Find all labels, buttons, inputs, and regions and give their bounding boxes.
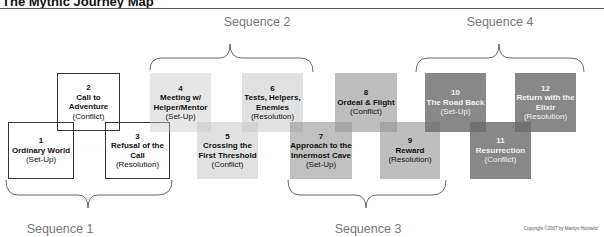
sequence-2-label: Sequence 2 <box>224 15 291 29</box>
stage-act: (Resolution) <box>116 160 159 170</box>
stage-name: Return with the Elixir <box>515 93 576 112</box>
stage-number: 11 <box>496 136 504 146</box>
stage-number: 3 <box>135 132 139 142</box>
stage-act: (Conflict) <box>72 112 104 122</box>
stage-name: Tests, Helpers, Enemies <box>242 93 303 112</box>
stage-name: Crossing the First Threshold <box>197 141 258 160</box>
stage-number: 6 <box>270 84 274 94</box>
stage-act: (Conflict) <box>211 160 243 170</box>
stage-number: 8 <box>364 88 368 98</box>
stage-name: Meeting w/ Helper/Mentor <box>150 93 211 112</box>
sequence-4-label: Sequence 4 <box>467 15 534 29</box>
brace-sequence-3 <box>288 180 446 208</box>
stage-name: The Road Back <box>427 98 485 108</box>
stage-box-12: 12Return with the Elixir(Resolution) <box>515 73 576 132</box>
copyright-notice: Copyright ©2007 by Marilyn Horowitz <box>524 226 598 231</box>
stage-act: (Resolution) <box>388 155 431 165</box>
stage-act: (Set-Up) <box>306 160 336 170</box>
stage-name: Approach to the Innermost Cave <box>290 141 352 160</box>
stage-number: 7 <box>319 132 323 142</box>
stage-name: Resurrection <box>476 146 525 156</box>
brace-sequence-1 <box>6 180 172 208</box>
stage-number: 10 <box>451 88 460 98</box>
stage-name: Ordinary World <box>12 146 70 156</box>
stage-act: (Conflict) <box>350 107 382 117</box>
stage-act: (Resolution) <box>524 112 567 122</box>
stage-name: Ordeal & Flight <box>337 98 394 108</box>
stage-act: (Set-Up) <box>26 155 56 165</box>
stage-name: Refusal of the Call <box>106 141 169 160</box>
stage-act: (Conflict) <box>484 155 516 165</box>
stage-number: 12 <box>541 84 550 94</box>
sequence-3-label: Sequence 3 <box>335 222 402 236</box>
sequence-1-label: Sequence 1 <box>27 222 94 236</box>
stage-act: (Resolution) <box>251 112 294 122</box>
stage-number: 1 <box>39 136 43 146</box>
brace-sequence-4 <box>416 44 584 72</box>
stage-name: Call to Adventure <box>58 93 119 112</box>
brace-sequence-2 <box>150 44 313 72</box>
stage-number: 9 <box>408 136 412 146</box>
stage-act: (Set-Up) <box>165 112 195 122</box>
stage-number: 5 <box>225 132 229 142</box>
stage-number: 4 <box>178 84 182 94</box>
stage-act: (Set-Up) <box>440 107 470 117</box>
stage-number: 2 <box>86 83 90 93</box>
stage-name: Reward <box>396 146 425 156</box>
